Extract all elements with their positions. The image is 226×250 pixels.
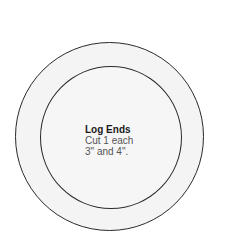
cut-instruction-line1: Cut 1 each bbox=[85, 135, 133, 146]
cut-instruction-line2: 3" and 4". bbox=[85, 146, 133, 157]
pattern-label: Log Ends Cut 1 each 3" and 4". bbox=[85, 124, 133, 157]
pattern-title: Log Ends bbox=[85, 124, 133, 135]
